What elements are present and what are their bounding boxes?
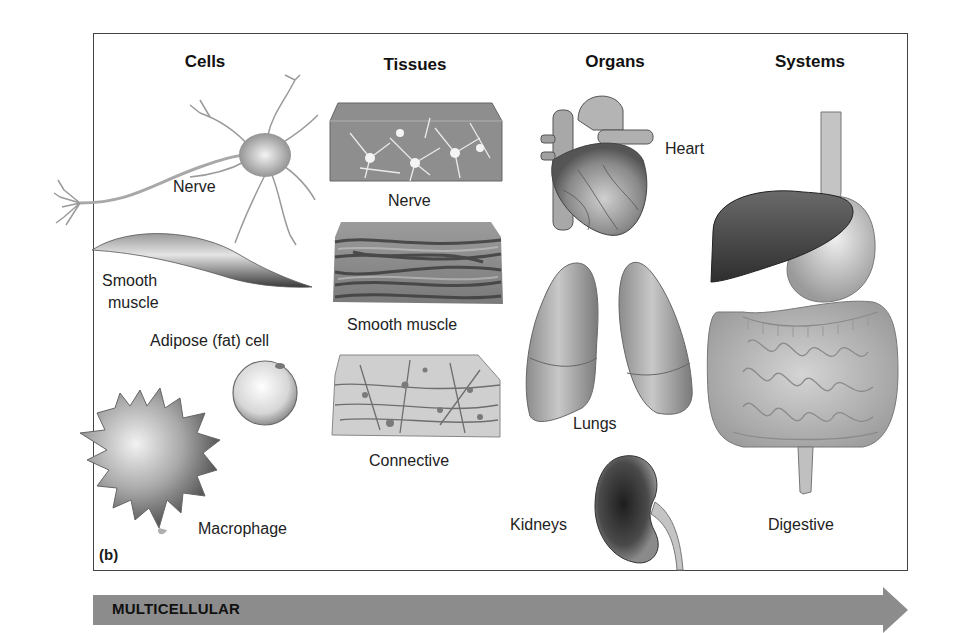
label-macrophage: Macrophage — [198, 518, 287, 540]
header-systems: Systems — [760, 52, 860, 72]
label-smooth-muscle-tissue: Smooth muscle — [347, 314, 457, 336]
header-cells: Cells — [165, 52, 245, 72]
label-kidneys: Kidneys — [510, 514, 567, 536]
panel-label: (b) — [99, 546, 118, 563]
connective-tissue-illustration — [330, 355, 502, 437]
label-smooth-muscle-cell-line2: muscle — [108, 292, 159, 314]
label-lungs: Lungs — [573, 413, 617, 435]
nerve-tissue-illustration — [330, 103, 505, 183]
macrophage-illustration — [75, 378, 235, 538]
heart-illustration — [533, 90, 658, 240]
adipose-cell-illustration — [230, 358, 300, 428]
label-adipose-cell: Adipose (fat) cell — [150, 330, 269, 352]
kidney-illustration — [585, 452, 695, 572]
nerve-cell-illustration — [50, 75, 320, 245]
label-smooth-muscle-cell-line1: Smooth — [102, 270, 157, 292]
multicellular-label: MULTICELLULAR — [112, 600, 240, 617]
label-nerve-cell: Nerve — [173, 176, 216, 198]
header-tissues: Tissues — [365, 55, 465, 75]
label-connective-tissue: Connective — [369, 450, 449, 472]
label-nerve-tissue: Nerve — [388, 190, 431, 212]
smooth-muscle-tissue-illustration — [333, 222, 505, 304]
digestive-system-illustration — [703, 112, 903, 497]
header-organs: Organs — [565, 52, 665, 72]
lungs-illustration — [522, 258, 702, 428]
label-digestive-system: Digestive — [768, 514, 834, 536]
label-heart: Heart — [665, 138, 704, 160]
